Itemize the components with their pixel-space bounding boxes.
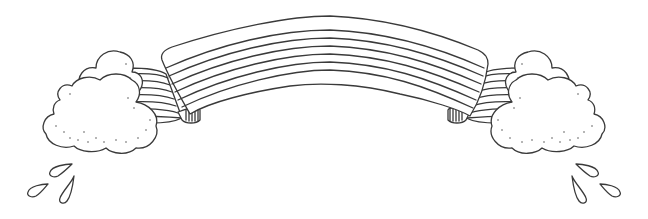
raindrop-icon: [600, 184, 620, 197]
rainbow-banner-illustration: [0, 0, 648, 219]
raindrop-icon: [50, 164, 72, 177]
illustration-svg: [0, 0, 648, 219]
right-raindrops: [572, 164, 620, 203]
raindrop-icon: [572, 176, 586, 203]
raindrop-icon: [576, 164, 598, 177]
raindrop-icon: [28, 184, 48, 197]
raindrop-icon: [60, 176, 74, 203]
main-banner: [161, 16, 488, 116]
left-raindrops: [28, 164, 74, 203]
